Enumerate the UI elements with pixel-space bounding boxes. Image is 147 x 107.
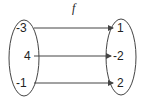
domain-value: -1: [16, 76, 27, 90]
function-mapping-diagram: f -3 4 -1 1 -2 2: [0, 0, 147, 107]
domain-value: 4: [24, 49, 31, 63]
codomain-value: -2: [113, 49, 124, 63]
function-label: f: [72, 1, 77, 15]
domain-value: -3: [16, 21, 27, 35]
codomain-value: 2: [117, 76, 124, 90]
codomain-value: 1: [117, 21, 124, 35]
